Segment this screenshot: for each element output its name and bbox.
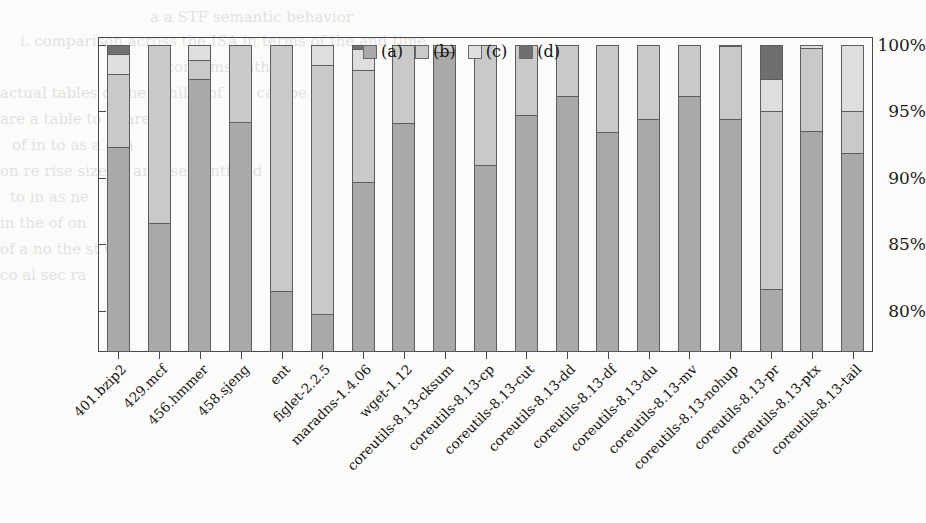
bar-segment-a bbox=[271, 292, 292, 351]
bar-segment-d bbox=[761, 46, 782, 80]
stacked-bar[interactable] bbox=[841, 45, 864, 352]
x-axis-tick-mark bbox=[689, 352, 690, 359]
bar-segment-b bbox=[230, 46, 251, 123]
x-axis-tick-mark bbox=[486, 352, 487, 359]
stacked-bar[interactable] bbox=[474, 45, 497, 352]
stacked-bar[interactable] bbox=[392, 45, 415, 352]
bar-segment-a bbox=[801, 132, 822, 351]
x-axis-tick-mark bbox=[771, 352, 772, 359]
x-axis-tick-mark bbox=[241, 352, 242, 359]
legend-label: (c) bbox=[486, 42, 507, 61]
bar-segment-c bbox=[189, 46, 210, 61]
stacked-bar[interactable] bbox=[515, 45, 538, 352]
legend-item[interactable]: (d) bbox=[519, 42, 560, 61]
bar-segment-b bbox=[597, 46, 618, 133]
y-axis-tick-mark bbox=[98, 45, 106, 46]
stacked-bar[interactable] bbox=[678, 45, 701, 352]
bar-segment-b bbox=[312, 66, 333, 316]
stacked-bar[interactable] bbox=[270, 45, 293, 352]
legend-item[interactable]: (a) bbox=[363, 42, 403, 61]
stacked-bar[interactable] bbox=[352, 45, 375, 352]
x-axis-tick-mark bbox=[200, 352, 201, 359]
bar-segment-b bbox=[108, 75, 129, 148]
stacked-bar[interactable] bbox=[229, 45, 252, 352]
x-axis-tick-mark bbox=[282, 352, 283, 359]
stacked-bar[interactable] bbox=[188, 45, 211, 352]
stacked-bar[interactable] bbox=[719, 45, 742, 352]
bar-segment-a bbox=[475, 166, 496, 351]
bar-segment-a bbox=[149, 224, 170, 351]
legend-swatch-b bbox=[415, 45, 429, 59]
bar-segment-a bbox=[393, 124, 414, 351]
legend-swatch-d bbox=[519, 45, 533, 59]
stacked-bar-chart: 100%95%90%85%80% 401.bzip2429.mcf456.hmm… bbox=[0, 0, 926, 523]
x-axis-tick-mark bbox=[159, 352, 160, 359]
bar-segment-a bbox=[842, 154, 863, 351]
bar-segment-b bbox=[720, 47, 741, 120]
x-axis-tick-mark bbox=[118, 352, 119, 359]
x-axis-tick-mark bbox=[608, 352, 609, 359]
legend-label: (a) bbox=[381, 42, 403, 61]
x-axis-tick-mark bbox=[363, 352, 364, 359]
x-axis-tick-mark bbox=[812, 352, 813, 359]
bar-segment-a bbox=[189, 80, 210, 351]
bar-segment-b bbox=[271, 46, 292, 292]
stacked-bar[interactable] bbox=[556, 45, 579, 352]
bar-segment-b bbox=[353, 71, 374, 183]
y-axis-tick-mark bbox=[98, 244, 106, 245]
stacked-bar[interactable] bbox=[433, 45, 456, 352]
bar-segment-a bbox=[230, 123, 251, 351]
x-axis-tick-mark bbox=[567, 352, 568, 359]
bar-segment-a bbox=[597, 133, 618, 351]
bar-segment-c bbox=[842, 46, 863, 112]
bar-segment-b bbox=[638, 46, 659, 120]
bar-segment-a bbox=[638, 120, 659, 351]
bar-segment-b bbox=[761, 112, 782, 290]
stacked-bar[interactable] bbox=[107, 45, 130, 352]
bar-segment-d bbox=[108, 46, 129, 55]
bar-segment-b bbox=[679, 46, 700, 98]
bar-segment-b bbox=[475, 46, 496, 166]
y-axis-tick-mark bbox=[98, 178, 106, 179]
x-axis-tick-mark bbox=[853, 352, 854, 359]
bar-segment-b bbox=[842, 112, 863, 154]
x-axis-tick-mark bbox=[649, 352, 650, 359]
legend-swatch-a bbox=[363, 45, 377, 59]
x-axis-tick-mark bbox=[730, 352, 731, 359]
stacked-bar[interactable] bbox=[800, 45, 823, 352]
stacked-bar[interactable] bbox=[311, 45, 334, 352]
bar-segment-a bbox=[679, 97, 700, 351]
stacked-bar[interactable] bbox=[596, 45, 619, 352]
stacked-bar[interactable] bbox=[148, 45, 171, 352]
bar-segment-a bbox=[108, 148, 129, 351]
bar-segment-a bbox=[312, 315, 333, 351]
y-axis-tick-mark bbox=[98, 111, 106, 112]
bar-segment-b bbox=[149, 46, 170, 224]
bar-segment-c bbox=[108, 55, 129, 75]
legend-item[interactable]: (b) bbox=[415, 42, 456, 61]
bar-segment-a bbox=[434, 53, 455, 351]
chart-legend: (a)(b)(c)(d) bbox=[363, 42, 569, 61]
x-axis-tick-mark bbox=[322, 352, 323, 359]
x-axis-tick-mark bbox=[404, 352, 405, 359]
bar-segment-a bbox=[720, 120, 741, 351]
bar-segment-b bbox=[189, 61, 210, 81]
y-axis-tick-mark bbox=[98, 311, 106, 312]
bar-segment-a bbox=[353, 183, 374, 351]
bar-segment-a bbox=[761, 290, 782, 351]
bar-segment-b bbox=[801, 49, 822, 132]
bar-segment-c bbox=[312, 46, 333, 66]
stacked-bar[interactable] bbox=[637, 45, 660, 352]
legend-label: (d) bbox=[537, 42, 560, 61]
x-axis-tick-mark bbox=[526, 352, 527, 359]
bar-segment-a bbox=[557, 97, 578, 351]
x-axis-tick-mark bbox=[445, 352, 446, 359]
bar-segment-c bbox=[761, 80, 782, 112]
stacked-bar[interactable] bbox=[760, 45, 783, 352]
bar-segment-a bbox=[516, 116, 537, 351]
legend-label: (b) bbox=[433, 42, 456, 61]
legend-swatch-c bbox=[468, 45, 482, 59]
legend-item[interactable]: (c) bbox=[468, 42, 507, 61]
